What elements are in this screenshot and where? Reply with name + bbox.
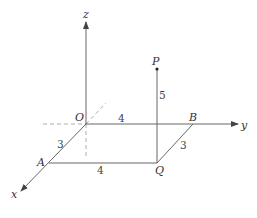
point-Q-label: Q [155,164,164,177]
z-axis-label: z [82,8,89,21]
coordinate-diagram: z y x O A B Q P 4 3 4 3 5 [0,0,257,218]
length-OA: 3 [57,138,64,150]
length-OB: 4 [118,112,125,124]
length-QP: 5 [159,89,166,101]
length-AQ: 4 [97,164,104,176]
y-axis-label: y [240,119,248,132]
length-BQ: 3 [180,139,187,151]
x-axis-negative-dashed [86,103,106,124]
x-axis-label: x [11,188,18,201]
segment-BQ [157,124,193,163]
point-P-label: P [151,55,160,68]
point-A-label: A [36,156,45,169]
x-axis [21,124,86,191]
point-B-label: B [188,111,197,124]
point-O-label: O [75,111,84,124]
